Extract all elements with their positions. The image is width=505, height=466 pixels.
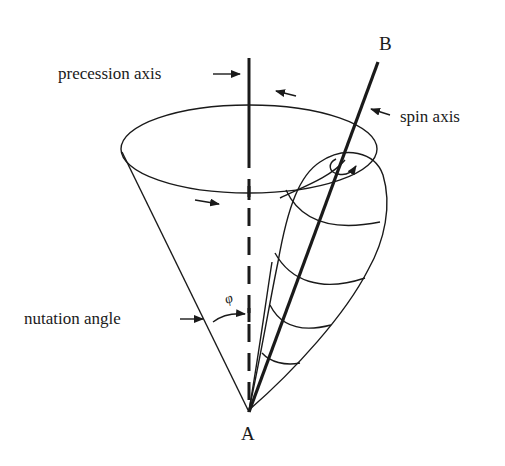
point-a-label: A: [241, 424, 255, 443]
nutation-angle-arc: [213, 314, 245, 322]
nutation-ring-3: [270, 305, 331, 328]
nutation-envelope: [249, 153, 387, 410]
spin-axis-label: spin axis: [400, 108, 460, 125]
precession-back-arrow-icon: [276, 91, 296, 96]
nutation-ring-1: [286, 190, 380, 225]
cone-left-edge: [122, 152, 249, 412]
precession-axis-label: precession axis: [58, 65, 161, 82]
spin-axis-arrow-icon: [371, 109, 390, 115]
point-b-label: B: [379, 34, 392, 53]
precession-front-arrow-icon: [195, 200, 219, 204]
nutation-outline-inner: [249, 262, 272, 410]
spin-axis: [249, 62, 378, 412]
nutation-angle-label: nutation angle: [24, 310, 121, 327]
nutation-ring-2: [275, 253, 365, 284]
